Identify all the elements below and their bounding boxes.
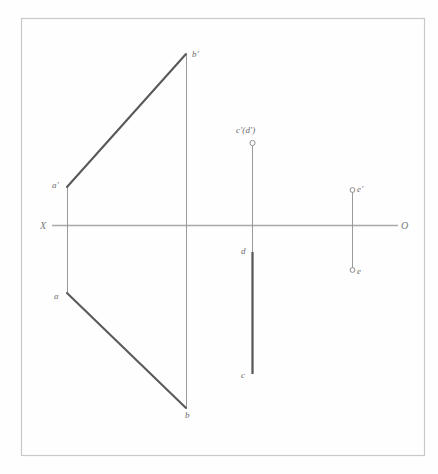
page-border [22,19,425,456]
label-a-prime: a' [52,180,60,190]
projection-drawing-canvas: b' a' a b c'(d') d c e' e X O [0,0,438,474]
label-b-prime: b' [192,49,200,59]
label-o-axis: O [401,220,408,231]
label-c: c [241,370,245,380]
label-b: b [185,410,190,420]
label-e: e [357,266,361,276]
segment-a-b [67,293,186,408]
label-e-prime: e' [357,184,364,194]
label-c-prime-d-prime: c'(d') [236,125,256,135]
label-x-axis: X [39,220,47,231]
marker-e [350,268,355,273]
label-d: d [241,246,246,256]
marker-c-prime-d-prime [250,140,255,145]
segment-a-prime-b-prime [67,54,186,187]
marker-e-prime [350,188,355,193]
label-a: a [54,291,59,301]
drawing-sheet: b' a' a b c'(d') d c e' e X O [0,0,438,474]
